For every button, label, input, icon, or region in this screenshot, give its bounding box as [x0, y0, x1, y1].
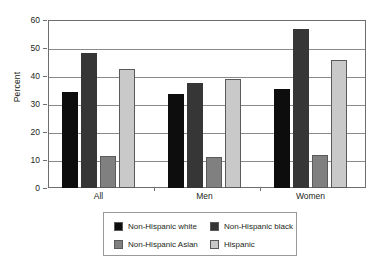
x-axis-tick-label: Men — [196, 192, 213, 201]
legend-label-hispanic: Hispanic — [224, 241, 255, 249]
gridlines — [49, 21, 365, 187]
gridline — [49, 77, 365, 78]
gridline — [49, 105, 365, 106]
y-axis-tick-label: 0 — [35, 184, 40, 193]
plot-area — [48, 20, 366, 188]
legend-item-hispanic: Hispanic — [210, 240, 255, 249]
legend-label-non-hispanic-asian: Non-Hispanic Asian — [128, 241, 198, 249]
y-axis-tick-label: 30 — [31, 100, 40, 109]
y-axis-tick — [43, 20, 47, 21]
y-axis-tick — [43, 104, 47, 105]
legend-label-non-hispanic-white: Non-Hispanic white — [128, 223, 197, 231]
gridline — [49, 133, 365, 134]
y-axis-tick-label: 20 — [31, 128, 40, 137]
x-axis-tick-labels: AllMenWomen — [48, 192, 366, 206]
y-axis-tick — [43, 160, 47, 161]
y-axis-tick — [43, 48, 47, 49]
legend-swatch-non-hispanic-black — [210, 222, 219, 231]
gridline — [49, 161, 365, 162]
x-axis-tick — [260, 188, 261, 191]
legend-swatch-hispanic — [210, 240, 219, 249]
y-axis-tick-labels: 0102030405060 — [0, 0, 48, 269]
legend-label-non-hispanic-black: Non-Hispanic black — [224, 223, 293, 231]
legend-item-non-hispanic-asian: Non-Hispanic Asian — [114, 240, 198, 249]
legend: Non-Hispanic white Non-Hispanic black No… — [103, 212, 297, 256]
y-axis-tick-label: 40 — [31, 72, 40, 81]
y-axis-tick-label: 60 — [31, 16, 40, 25]
y-axis-tick — [43, 76, 47, 77]
legend-swatch-non-hispanic-asian — [114, 240, 123, 249]
legend-item-non-hispanic-black: Non-Hispanic black — [210, 222, 293, 231]
y-axis-tick — [43, 132, 47, 133]
legend-swatch-non-hispanic-white — [114, 222, 123, 231]
x-axis-tick-label: All — [94, 192, 103, 201]
legend-item-non-hispanic-white: Non-Hispanic white — [114, 222, 197, 231]
bar-chart: Percent 0102030405060 AllMenWomen Non-Hi… — [0, 0, 385, 269]
x-axis-tick-label: Women — [296, 192, 325, 201]
y-axis-tick-label: 50 — [31, 44, 40, 53]
y-axis-tick-label: 10 — [31, 156, 40, 165]
y-axis-tick — [43, 188, 47, 189]
gridline — [49, 49, 365, 50]
x-axis-tick — [154, 188, 155, 191]
